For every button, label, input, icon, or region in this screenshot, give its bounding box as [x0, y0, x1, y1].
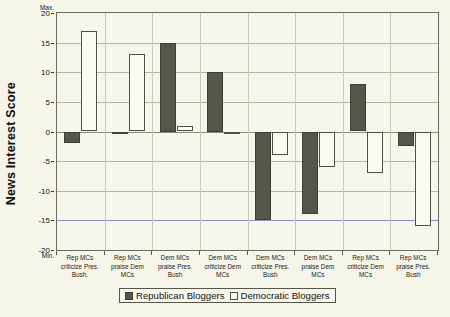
category-separator [152, 13, 153, 250]
category-label-line: Rep MCs [342, 254, 390, 263]
y-tick-label: -20 [38, 246, 50, 255]
bar-democratic [177, 126, 193, 132]
bar-republican [160, 43, 176, 132]
category-label-line: praise Dem [104, 263, 152, 272]
bar-republican [112, 132, 128, 134]
category-label-line: Rep MCs [104, 254, 152, 263]
y-axis-title-text: News Interest Score [4, 82, 18, 205]
category-label-line: MCs [342, 271, 390, 280]
bar-democratic [224, 132, 240, 134]
legend-label: Democratic Bloggers [241, 290, 330, 301]
category-separator [248, 13, 249, 250]
y-tick-mark [51, 102, 54, 103]
category-label: Dem MCspraise DemMCs [294, 254, 342, 280]
bar-democratic [367, 132, 383, 173]
category-label-line: praise Dem [294, 263, 342, 272]
category-label-line: Bush. [56, 271, 104, 280]
category-separator [295, 13, 296, 250]
bar-democratic [319, 132, 335, 168]
bar-democratic [415, 132, 431, 227]
category-label-line: MCs [104, 271, 152, 280]
y-tick-mark [51, 132, 54, 133]
y-tick-label: 0 [46, 127, 50, 136]
y-tick-mark [51, 43, 54, 44]
y-tick-mark [51, 220, 54, 221]
category-label: Rep MCscriticize Pres.Bush. [56, 254, 104, 280]
x-axis-category-labels: Rep MCscriticize Pres.Bush.Rep MCspraise… [56, 254, 439, 288]
category-label-line: Bush [247, 271, 295, 280]
category-label-line: praise Pres. [389, 263, 437, 272]
category-label: Rep MCspraise DemMCs [104, 254, 152, 280]
y-tick-mark [51, 72, 54, 73]
y-tick-label: 5 [46, 97, 50, 106]
category-label-line: criticize Pres. [56, 263, 104, 272]
legend-item: Republican Bloggers [125, 290, 225, 301]
y-tick-label: 10 [41, 68, 50, 77]
legend-swatch-icon [125, 292, 133, 300]
bar-republican [350, 84, 366, 131]
legend-swatch-icon [230, 292, 238, 300]
y-tick-label: 15 [41, 38, 50, 47]
category-label-line: Dem MCs [199, 254, 247, 263]
category-separator [343, 13, 344, 250]
y-tick-mark [51, 250, 54, 251]
category-label-line: Bush [389, 271, 437, 280]
legend-label: Republican Bloggers [136, 290, 225, 301]
category-label-line: criticize Pres. [247, 263, 295, 272]
y-tick-label: -10 [38, 186, 50, 195]
category-label: Rep MCspraise Pres.Bush [389, 254, 437, 280]
bar-republican [255, 132, 271, 221]
y-tick-mark [51, 13, 54, 14]
category-label-line: criticize Dem [342, 263, 390, 272]
bar-democratic [81, 31, 97, 132]
y-tick-mark [51, 161, 54, 162]
category-separator [200, 13, 201, 250]
category-label-line: Dem MCs [294, 254, 342, 263]
category-separator [105, 13, 106, 250]
chart-legend: Republican BloggersDemocratic Bloggers [119, 288, 336, 303]
category-label-line: Dem MCs [247, 254, 295, 263]
category-label: Dem MCscriticize Pres.Bush [247, 254, 295, 280]
category-separator [390, 13, 391, 250]
category-label: Dem MCspraise Pres.Bush [151, 254, 199, 280]
bar-republican [64, 132, 80, 144]
category-label-line: Dem MCs [151, 254, 199, 263]
plot-area [56, 12, 439, 251]
category-label-line: Bush [151, 271, 199, 280]
y-tick-mark [51, 191, 54, 192]
category-label-line: Rep MCs [56, 254, 104, 263]
category-label-line: Rep MCs [389, 254, 437, 263]
bar-democratic [129, 54, 145, 131]
bar-republican [398, 132, 414, 147]
bar-democratic [272, 132, 288, 156]
bar-republican [302, 132, 318, 215]
y-tick-label: -5 [43, 157, 50, 166]
category-label-line: praise Pres. [151, 263, 199, 272]
y-tick-label: 20 [41, 9, 50, 18]
y-tick-label: -15 [38, 216, 50, 225]
y-axis-ticks: 20151050-5-10-15-20 [26, 0, 54, 265]
bar-republican [207, 72, 223, 131]
category-label-line: MCs [294, 271, 342, 280]
category-label-line: criticize Dem [199, 263, 247, 272]
chart-figure: News Interest Score Max. Min. 20151050-5… [0, 0, 450, 317]
category-label-line: MCs [199, 271, 247, 280]
y-axis-title: News Interest Score [0, 44, 22, 244]
category-label: Dem MCscriticize DemMCs [199, 254, 247, 280]
legend-item: Democratic Bloggers [230, 290, 330, 301]
category-label: Rep MCscriticize DemMCs [342, 254, 390, 280]
